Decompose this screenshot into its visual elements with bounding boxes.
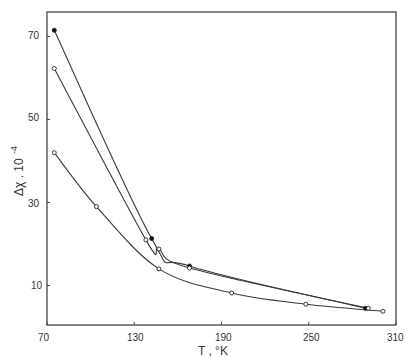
x-tick-label: 70 <box>38 332 50 343</box>
data-point-marker <box>157 247 161 251</box>
y-tick-label: 70 <box>28 30 40 41</box>
data-point-marker <box>304 302 308 306</box>
y-axis-title: Δχ . 10 -4 <box>9 146 26 196</box>
data-point-marker <box>366 306 370 310</box>
data-curves <box>54 30 383 311</box>
series-curve-3 <box>54 153 383 312</box>
chart-canvas: 70 130 190 250 310 70 50 30 10 T , °K Δχ… <box>0 0 413 358</box>
data-point-marker <box>52 28 56 32</box>
y-axis-title-main: Δχ . 10 <box>12 158 26 196</box>
x-tick-labels: 70 130 190 250 310 <box>38 332 404 343</box>
plot-border <box>47 12 396 325</box>
data-point-marker <box>94 205 98 209</box>
x-axis-title: T , °K <box>198 344 228 358</box>
data-point-marker <box>52 66 56 70</box>
data-point-marker <box>150 237 154 241</box>
x-tick-label: 130 <box>127 332 144 343</box>
data-point-marker <box>144 238 148 242</box>
data-markers <box>52 28 385 313</box>
plot-frame <box>47 12 396 325</box>
data-point-marker <box>230 291 234 295</box>
data-point-marker <box>381 309 385 313</box>
x-tick-label: 310 <box>387 332 404 343</box>
data-point-marker <box>52 151 56 155</box>
data-point-marker <box>188 266 192 270</box>
y-tick-label: 50 <box>28 112 40 123</box>
y-axis-title-exponent: -4 <box>9 146 19 154</box>
x-tick-label: 190 <box>215 332 232 343</box>
data-point-marker <box>157 267 161 271</box>
axis-ticks <box>47 37 396 326</box>
series-curve-1 <box>54 30 365 308</box>
y-tick-label: 10 <box>31 280 43 291</box>
y-tick-labels: 70 50 30 10 <box>28 30 43 291</box>
x-tick-label: 250 <box>303 332 320 343</box>
y-tick-label: 30 <box>28 198 40 209</box>
